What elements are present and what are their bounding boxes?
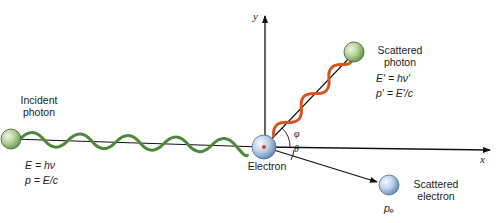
incident-photon-label: Incident photon (14, 94, 64, 118)
scattered-electron-sphere (379, 175, 399, 195)
compton-diagram: y x Incident photon E = hν p = E/c Elect… (0, 0, 502, 223)
scattered-photon-label-line2: photon (372, 56, 428, 68)
scattered-electron-label-line2: electron (408, 190, 464, 202)
scattered-photon-sphere (344, 42, 364, 62)
scattered-electron-label: Scattered electron (408, 178, 464, 202)
phi-arc (282, 128, 290, 148)
electron-label: Electron (242, 160, 292, 172)
incident-photon-label-line1: Incident (14, 94, 64, 106)
scattered-electron-label-line1: Scattered (408, 178, 464, 190)
incident-momentum-eq: p = E/c (25, 173, 58, 187)
incident-photon-label-line2: photon (14, 106, 64, 118)
incident-photon-sphere (1, 129, 21, 149)
electron-center-dot (262, 145, 266, 149)
y-axis-label: y (253, 10, 258, 22)
scattered-photon-label: Scattered photon (372, 44, 428, 68)
incident-wave (20, 132, 248, 156)
scattered-photon-label-line1: Scattered (372, 44, 428, 56)
scattered-momentum-eq: p′ = E′/c (376, 86, 413, 100)
phi-angle-label: φ (294, 128, 300, 139)
x-axis-label: x (480, 153, 485, 165)
scattered-energy-eq: E′ = hν′ (376, 71, 410, 85)
scattered-electron-momentum: pₑ (384, 201, 394, 215)
theta-angle-label: θ (294, 143, 299, 154)
incident-energy-eq: E = hν (25, 158, 55, 172)
scattered-photon-path (264, 55, 352, 147)
